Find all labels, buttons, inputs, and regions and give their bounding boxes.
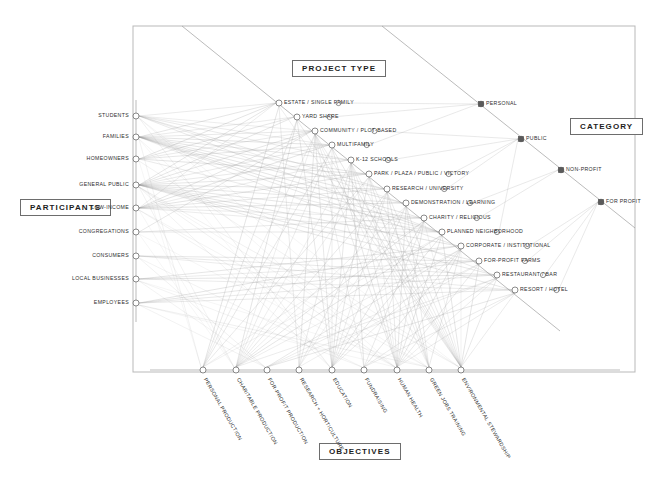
link-line <box>139 145 329 185</box>
link-line <box>267 293 515 367</box>
link-line <box>315 134 461 367</box>
link-line <box>332 104 479 117</box>
link-line <box>139 275 494 279</box>
label-project-type-4: K-12 SCHOOLS <box>356 157 398 162</box>
label-participant-5: CONGREGATIONS <box>79 229 129 234</box>
node-project-type-13[interactable] <box>512 287 518 293</box>
node-category-0[interactable] <box>478 101 484 107</box>
link-line <box>203 134 315 367</box>
node-participant-3[interactable] <box>133 182 139 188</box>
node-participant-1[interactable] <box>133 134 139 140</box>
label-participant-4: LOW-INCOME <box>91 205 129 210</box>
link-line <box>139 139 201 367</box>
node-project-type-8[interactable] <box>421 215 427 221</box>
node-project-type-2[interactable] <box>312 128 318 134</box>
link-line <box>139 131 312 137</box>
link-line <box>139 103 276 137</box>
label-project-type-9: PLANNED NEIGHBORHOOD <box>447 229 523 234</box>
label-participant-6: CONSUMERS <box>92 253 129 258</box>
label-project-type-5: PARK / PLAZA / PUBLIC / VICTORY <box>374 171 469 176</box>
label-participant-0: STUDENTS <box>98 113 129 118</box>
link-line <box>139 137 494 275</box>
link-line <box>139 305 395 367</box>
axis-title-category: CATEGORY <box>570 118 643 135</box>
axis-title-objectives: OBJECTIVES <box>319 443 401 460</box>
label-participant-7: LOCAL BUSINESSES <box>72 276 129 281</box>
label-project-type-1: YARD SHARE <box>302 114 339 119</box>
label-category-1: PUBLIC <box>526 136 547 141</box>
label-project-type-3: MULTIFAMILY <box>337 142 374 147</box>
node-project-type-1[interactable] <box>294 114 300 120</box>
link-line <box>527 202 598 261</box>
label-project-type-2: COMMUNITY / PLOT-BASED <box>320 128 397 133</box>
link-line <box>236 278 497 367</box>
link-line <box>236 163 351 367</box>
link-line <box>236 192 387 367</box>
link-line <box>139 137 421 218</box>
label-participant-3: GENERAL PUBLIC <box>79 182 129 187</box>
label-participant-8: EMPLOYEES <box>94 300 129 305</box>
link-line <box>139 218 421 232</box>
node-objective-2[interactable] <box>264 367 270 373</box>
label-project-type-0: ESTATE / SINGLE FAMILY <box>284 100 354 105</box>
link-line <box>236 206 406 367</box>
node-participant-6[interactable] <box>133 253 139 259</box>
link-line <box>369 104 478 145</box>
label-category-0: PERSONAL <box>486 101 517 106</box>
diagram-canvas: PROJECT TYPE CATEGORY PARTICIPANTS OBJEC… <box>0 0 662 477</box>
node-category-2[interactable] <box>558 167 564 173</box>
link-line <box>139 258 362 367</box>
node-project-type-4[interactable] <box>348 157 354 163</box>
node-participant-7[interactable] <box>133 276 139 282</box>
label-project-type-12: RESTAURANT / BAR <box>502 272 557 277</box>
node-project-type-3[interactable] <box>329 142 335 148</box>
node-participant-8[interactable] <box>133 300 139 306</box>
node-project-type-9[interactable] <box>439 229 445 235</box>
link-line <box>139 187 234 367</box>
node-objective-4[interactable] <box>329 367 335 373</box>
node-objective-0[interactable] <box>200 367 206 373</box>
label-project-type-10: CORPORATE / INSTITUTIONAL <box>466 243 550 248</box>
link-line <box>377 131 519 139</box>
link-line <box>529 202 598 246</box>
link-line <box>203 120 297 367</box>
link-line <box>236 235 442 367</box>
label-project-type-11: FOR-PROFIT FARMS <box>484 258 541 263</box>
node-category-1[interactable] <box>518 136 524 142</box>
axis-title-project-type: PROJECT TYPE <box>292 60 386 77</box>
node-objective-3[interactable] <box>296 367 302 373</box>
node-objective-8[interactable] <box>458 367 464 373</box>
node-project-type-11[interactable] <box>476 258 482 264</box>
node-objective-7[interactable] <box>426 367 432 373</box>
link-line <box>203 235 442 367</box>
node-project-type-7[interactable] <box>403 200 409 206</box>
node-objective-5[interactable] <box>361 367 367 373</box>
node-participant-4[interactable] <box>133 205 139 211</box>
label-participant-2: HOMEOWNERS <box>87 156 129 161</box>
label-category-3: FOR PROFIT <box>606 199 641 204</box>
label-project-type-13: RESORT / HOTEL <box>520 287 568 292</box>
node-project-type-10[interactable] <box>458 243 464 249</box>
node-participant-0[interactable] <box>133 113 139 119</box>
link-line <box>139 139 330 367</box>
link-line <box>341 103 479 104</box>
node-project-type-5[interactable] <box>366 171 372 177</box>
link-line <box>451 139 518 174</box>
node-project-type-12[interactable] <box>494 272 500 278</box>
node-participant-2[interactable] <box>133 156 139 162</box>
link-line <box>139 187 459 367</box>
link-line <box>139 103 276 116</box>
link-line <box>139 281 427 367</box>
link-line <box>461 264 479 367</box>
label-project-type-8: CHARITY / RELIGIOUS <box>429 215 491 220</box>
node-category-3[interactable] <box>598 199 604 205</box>
node-participant-5[interactable] <box>133 229 139 235</box>
link-line <box>139 281 362 367</box>
link-line <box>267 249 461 367</box>
link-line <box>139 246 458 279</box>
link-line <box>390 139 518 160</box>
node-project-type-0[interactable] <box>276 100 282 106</box>
node-project-type-6[interactable] <box>384 186 390 192</box>
node-objective-1[interactable] <box>233 367 239 373</box>
node-objective-6[interactable] <box>394 367 400 373</box>
